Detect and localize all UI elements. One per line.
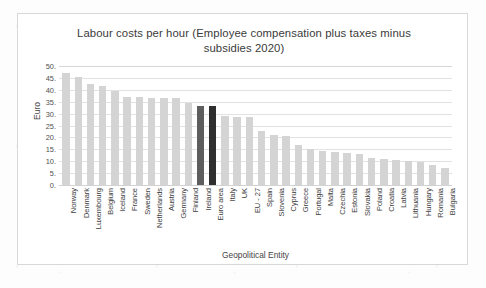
bar-slot: [268, 66, 280, 185]
x-label-slot: Slovakia: [353, 187, 365, 249]
x-label-slot: France: [121, 187, 133, 249]
y-axis-tick: 35.: [30, 97, 56, 106]
x-label-slot: Greece: [292, 187, 304, 249]
bar-slot: [414, 66, 426, 185]
x-label-slot: Sweden: [133, 187, 145, 249]
x-label-slot: Denmark: [72, 187, 84, 249]
x-label-slot: Netherlands: [146, 187, 158, 249]
bar-greece[interactable]: [295, 145, 302, 185]
bar-croatia[interactable]: [380, 159, 387, 185]
x-axis-tick: Bulgaria: [448, 188, 457, 215]
bar-slot: [121, 66, 133, 185]
bar-estonia[interactable]: [343, 153, 350, 185]
bar-germany[interactable]: [172, 98, 179, 185]
bar-poland[interactable]: [368, 158, 375, 185]
bar-slot: [439, 66, 451, 185]
bar-slot: [427, 66, 439, 185]
bar-slot: [292, 66, 304, 185]
y-axis-tick: 20.: [30, 133, 56, 142]
bar-slot: [182, 66, 194, 185]
bar-series: [59, 66, 452, 185]
bar-slot: [390, 66, 402, 185]
bar-austria[interactable]: [160, 98, 167, 185]
bar-slovenia[interactable]: [270, 135, 277, 185]
bar-ireland[interactable]: [197, 106, 204, 185]
y-axis-tick: 50.: [30, 62, 56, 71]
x-label-slot: Austria: [158, 187, 170, 249]
bar-slot: [72, 66, 84, 185]
bar-norway[interactable]: [62, 73, 69, 185]
bar-italy[interactable]: [221, 116, 228, 185]
bar-malta[interactable]: [319, 151, 326, 186]
bar-lithuania[interactable]: [405, 161, 412, 185]
bar-hungary[interactable]: [417, 162, 424, 185]
x-label-slot: Croatia: [378, 187, 390, 249]
bar-czechia[interactable]: [331, 152, 338, 185]
bar-finland[interactable]: [185, 103, 192, 185]
x-label-slot: Germany: [170, 187, 182, 249]
bar-slot: [170, 66, 182, 185]
bar-slot: [353, 66, 365, 185]
bar-bulgaria[interactable]: [441, 168, 448, 185]
bar-cyprus[interactable]: [282, 136, 289, 185]
bar-slot: [109, 66, 121, 185]
y-axis-tick: 15.: [30, 145, 56, 154]
x-axis-tick-labels: NorwayDenmarkLuxembourgBelgiumIcelandFra…: [59, 187, 452, 249]
bar-slot: [219, 66, 231, 185]
bar-uk[interactable]: [233, 117, 240, 185]
y-axis-tick: 5.: [30, 169, 56, 178]
bar-slot: [97, 66, 109, 185]
bar-slot: [280, 66, 292, 185]
y-axis-tick: 30.: [30, 109, 56, 118]
bar-luxembourg[interactable]: [87, 84, 94, 185]
bar-slot: [146, 66, 158, 185]
y-axis-tick: 40.: [30, 85, 56, 94]
bar-eu-27[interactable]: [246, 117, 253, 185]
chart-card: Labour costs per hour (Employee compensa…: [17, 13, 468, 265]
bar-slot: [378, 66, 390, 185]
bar-slot: [60, 66, 72, 185]
bar-slovakia[interactable]: [356, 154, 363, 185]
x-label-slot: Iceland: [109, 187, 121, 249]
plot-area: [59, 66, 452, 185]
x-label-slot: Ireland: [194, 187, 206, 249]
x-label-slot: EU - 27: [243, 187, 255, 249]
x-label-slot: Slovenia: [268, 187, 280, 249]
bar-latvia[interactable]: [392, 160, 399, 185]
bar-slot: [329, 66, 341, 185]
bar-slot: [256, 66, 268, 185]
y-axis-tick: 0.: [30, 181, 56, 190]
x-label-slot: Italy: [219, 187, 231, 249]
y-axis-tick-labels: 50.45.40.35.30.25.20.15.10.5.0.: [30, 61, 56, 185]
bar-belgium[interactable]: [99, 86, 106, 185]
x-label-slot: Romania: [427, 187, 439, 249]
bar-slot: [194, 66, 206, 185]
bar-portugal[interactable]: [307, 149, 314, 185]
bar-slot: [133, 66, 145, 185]
bar-sweden[interactable]: [136, 97, 143, 185]
bar-slot: [304, 66, 316, 185]
bar-slot: [402, 66, 414, 185]
bar-slot: [341, 66, 353, 185]
bar-denmark[interactable]: [75, 77, 82, 185]
bar-euro-area[interactable]: [209, 106, 216, 185]
bar-netherlands[interactable]: [148, 98, 155, 185]
bar-slot: [231, 66, 243, 185]
y-axis-tick: 45.: [30, 73, 56, 82]
x-label-slot: Spain: [256, 187, 268, 249]
x-label-slot: Norway: [60, 187, 72, 249]
x-label-slot: Latvia: [390, 187, 402, 249]
bar-spain[interactable]: [258, 131, 265, 185]
gridline: [59, 185, 452, 186]
x-label-slot: Finland: [182, 187, 194, 249]
x-label-slot: Euro area: [207, 187, 219, 249]
bar-slot: [317, 66, 329, 185]
x-label-slot: Estonia: [341, 187, 353, 249]
bar-iceland[interactable]: [111, 91, 118, 185]
bar-slot: [207, 66, 219, 185]
x-label-slot: Hungary: [414, 187, 426, 249]
x-label-slot: Malta: [317, 187, 329, 249]
x-label-slot: Belgium: [97, 187, 109, 249]
bar-france[interactable]: [123, 97, 130, 185]
bar-romania[interactable]: [429, 165, 436, 185]
